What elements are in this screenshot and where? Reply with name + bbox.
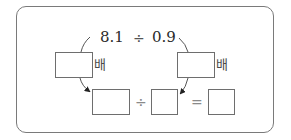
right-arc-upper (179, 38, 188, 52)
equals-sign: = (191, 95, 203, 109)
dividend-text: 8.1 (100, 30, 124, 45)
new-dividend-input[interactable] (92, 89, 130, 115)
divide-sign-bottom: ÷ (135, 95, 147, 109)
right-multiplier-unit: 배 (216, 58, 228, 71)
transformation-arrows (0, 0, 291, 140)
right-multiplier-input[interactable] (177, 52, 215, 78)
left-multiplier-input[interactable] (55, 52, 93, 78)
right-arc-lower-arrow (181, 78, 188, 93)
left-arc-upper (81, 37, 90, 52)
divisor-text: 0.9 (152, 30, 176, 45)
left-arc-lower-arrow (80, 78, 89, 91)
new-divisor-input[interactable] (151, 89, 178, 115)
divide-sign-top: ÷ (133, 31, 145, 45)
quotient-input[interactable] (208, 89, 235, 115)
left-multiplier-unit: 배 (94, 58, 106, 71)
